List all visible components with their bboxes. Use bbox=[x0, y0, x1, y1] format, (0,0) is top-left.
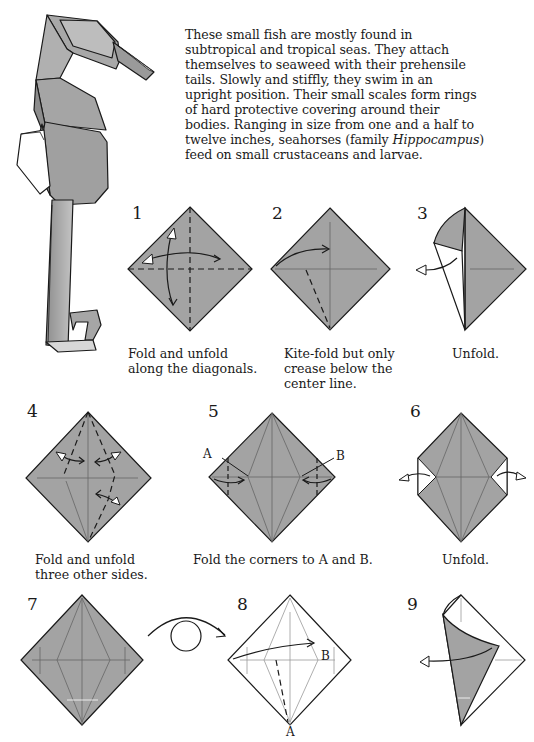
intro-line: of hard protective covering around their bbox=[185, 102, 530, 117]
step-7-diagram bbox=[21, 595, 143, 725]
step-3-diagram bbox=[416, 208, 526, 330]
step-number-2: 2 bbox=[272, 203, 283, 223]
intro-line: These small fish are mostly found in bbox=[185, 27, 530, 42]
caption-line: along the diagonals. bbox=[128, 361, 257, 376]
intro-line: themselves to seaweed with their prehens… bbox=[185, 57, 530, 72]
step-number-8: 8 bbox=[237, 594, 248, 614]
intro-line: subtropical and tropical seas. They atta… bbox=[185, 42, 530, 57]
intro-line: twelve inches, seahorses (family bbox=[185, 132, 393, 147]
turn-over-icon bbox=[148, 618, 225, 651]
step-8-diagram bbox=[228, 595, 351, 725]
caption-line: Fold the corners to A and B. bbox=[193, 552, 373, 567]
caption-line: crease below the bbox=[284, 361, 395, 376]
intro-line-with-italic: twelve inches, seahorses (family Hippoca… bbox=[185, 132, 530, 147]
intro-line: feed on small crustaceans and larvae. bbox=[185, 147, 530, 162]
point-label-a: A bbox=[286, 725, 295, 740]
step-number-1: 1 bbox=[132, 203, 143, 223]
point-label-b: B bbox=[336, 449, 345, 464]
caption-line: Unfold. bbox=[452, 346, 499, 361]
step-6-diagram bbox=[399, 413, 526, 542]
step-2-diagram bbox=[271, 208, 390, 330]
genus-name: Hippocampus bbox=[393, 132, 480, 147]
intro-line: upright position. Their small scales for… bbox=[185, 87, 530, 102]
step-6-caption: Unfold. bbox=[442, 552, 489, 567]
caption-line: center line. bbox=[284, 376, 395, 391]
caption-line: Fold and unfold bbox=[35, 552, 148, 567]
caption-line: Fold and unfold bbox=[128, 346, 257, 361]
step-9-diagram bbox=[420, 595, 525, 725]
intro-line: tails. Slowly and stiffly, they swim in … bbox=[185, 72, 530, 87]
step-4-diagram bbox=[26, 412, 151, 542]
caption-line: Unfold. bbox=[442, 552, 489, 567]
step-3-caption: Unfold. bbox=[452, 346, 499, 361]
intro-paragraph: These small fish are mostly found in sub… bbox=[185, 27, 530, 162]
step-number-6: 6 bbox=[410, 401, 421, 421]
step-5-diagram bbox=[209, 413, 335, 542]
step-number-9: 9 bbox=[407, 594, 418, 614]
step-2-caption: Kite-fold but only crease below the cent… bbox=[284, 346, 395, 391]
step-5-caption: Fold the corners to A and B. bbox=[193, 552, 373, 567]
closing-paren: ) bbox=[479, 132, 484, 147]
step-number-5: 5 bbox=[208, 401, 219, 421]
seahorse-model-illustration bbox=[17, 15, 154, 352]
intro-line: bodies. Ranging in size from one and a h… bbox=[185, 117, 530, 132]
step-number-7: 7 bbox=[27, 594, 38, 614]
caption-line: Kite-fold but only bbox=[284, 346, 395, 361]
step-4-caption: Fold and unfold three other sides. bbox=[35, 552, 148, 582]
step-number-4: 4 bbox=[27, 401, 38, 421]
step-1-diagram bbox=[128, 207, 252, 331]
point-label-b: B bbox=[321, 649, 330, 664]
caption-line: three other sides. bbox=[35, 567, 148, 582]
step-1-caption: Fold and unfold along the diagonals. bbox=[128, 346, 257, 376]
step-number-3: 3 bbox=[417, 203, 428, 223]
point-label-a: A bbox=[203, 447, 212, 462]
